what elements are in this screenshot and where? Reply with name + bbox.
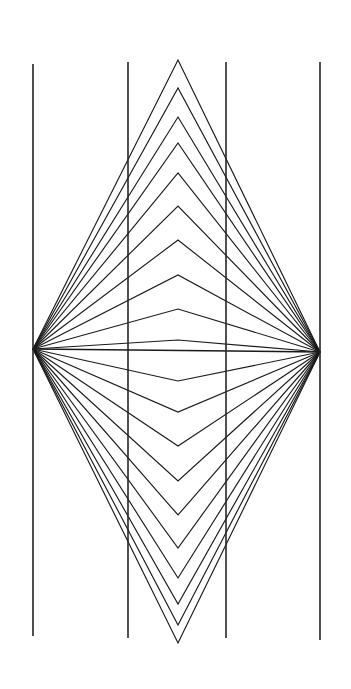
illusion-canvas [0,0,351,689]
figure-background [0,0,351,689]
illusion-figure [0,0,351,689]
